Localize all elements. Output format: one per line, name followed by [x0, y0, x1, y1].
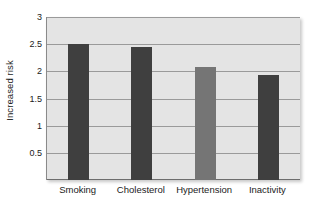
x-axis-tick-label: Cholesterol	[117, 184, 165, 195]
x-axis-tick-labels: SmokingCholesterolHypertensionInactivity	[46, 184, 300, 204]
x-axis-tick-label: Hypertension	[176, 184, 232, 195]
y-axis-tick-labels: 0.511.522.53	[18, 0, 44, 185]
bar	[195, 67, 216, 180]
bar	[258, 75, 279, 180]
y-axis-tick-label: 2.5	[29, 39, 42, 49]
x-axis-tick-label: Inactivity	[249, 184, 286, 195]
y-axis-tick-label: 1	[37, 121, 42, 131]
x-axis-tick-label: Smoking	[59, 184, 96, 195]
bar	[131, 47, 152, 180]
y-axis-title: Increased risk	[0, 0, 18, 180]
bar	[68, 44, 89, 180]
y-axis-title-label: Increased risk	[4, 60, 15, 121]
gridline	[47, 17, 300, 18]
y-axis-tick-label: 0.5	[29, 148, 42, 158]
y-axis-tick-label: 3	[37, 12, 42, 22]
plot-area	[46, 17, 300, 180]
y-axis-tick-label: 2	[37, 66, 42, 76]
bar-chart: Increased risk 0.511.522.53 SmokingChole…	[0, 0, 314, 209]
y-axis-tick-label: 1.5	[29, 94, 42, 104]
